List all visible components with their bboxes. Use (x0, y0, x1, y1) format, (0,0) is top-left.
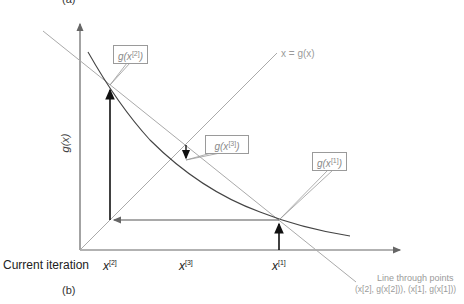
callout-sup: [1] (331, 157, 339, 164)
x-tick-sup: [1] (278, 259, 286, 266)
y-axis-label: g(x) (59, 134, 71, 153)
callout-end: ) (236, 141, 239, 152)
x-tick-sup: [3] (185, 259, 193, 266)
secant-label-line2: (x[2], g(x[2])), (x[1], g(x[1])) (355, 284, 456, 294)
x-tick-x2: x[2] (103, 259, 117, 273)
panel-label-b: (b) (62, 284, 75, 296)
callout-g-x1: g(x[1]) (312, 152, 347, 171)
callout-end: ) (140, 51, 143, 62)
callout-base: g(x (214, 141, 228, 152)
callout-base: g(x (317, 158, 331, 169)
panel-label-a: (a) (62, 0, 75, 5)
callout-pointer-2 (110, 63, 130, 85)
callout-g-x3: g(x[3]) (205, 135, 249, 154)
current-iteration-label: Current iteration (3, 258, 89, 272)
x-tick-x3: x[3] (179, 259, 193, 273)
callout-pointer-1 (279, 170, 333, 220)
x-tick-x1: x[1] (272, 259, 286, 273)
secant-label-line1: Line through points (377, 273, 454, 283)
callout-base: g(x (118, 51, 132, 62)
callout-sup: [2] (132, 50, 140, 57)
x-tick-sup: [2] (109, 259, 117, 266)
callout-end: ) (339, 158, 342, 169)
identity-line-label: x = g(x) (281, 48, 315, 59)
callout-g-x2: g(x[2]) (113, 45, 148, 64)
callout-sup: [3] (228, 140, 236, 147)
